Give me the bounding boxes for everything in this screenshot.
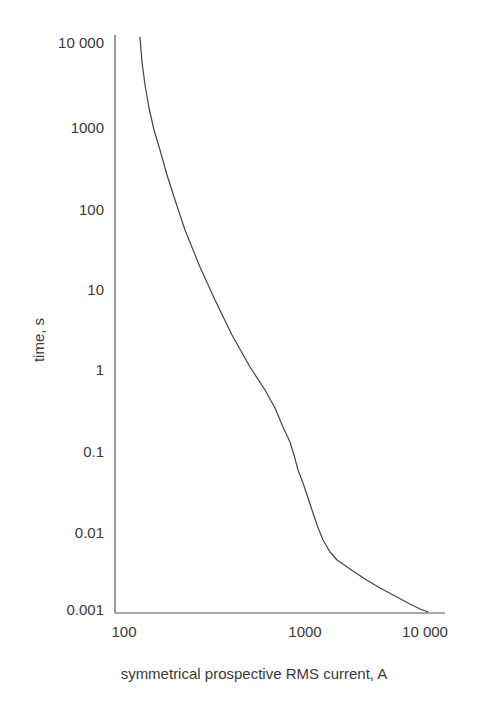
y-tick-label: 10 000 bbox=[58, 35, 104, 51]
y-tick-label: 0.1 bbox=[83, 444, 104, 460]
y-axis-title: time, s bbox=[30, 318, 47, 362]
y-tick-label: 1 bbox=[96, 362, 104, 378]
x-tick-label: 10 000 bbox=[402, 624, 448, 640]
x-tick-label: 100 bbox=[111, 624, 136, 640]
time-current-curve bbox=[140, 37, 428, 612]
y-tick-label: 0.01 bbox=[75, 525, 104, 541]
x-axis-title: symmetrical prospective RMS current, A bbox=[0, 665, 478, 682]
y-tick-label: 10 bbox=[87, 282, 104, 298]
y-tick-label: 0.001 bbox=[66, 602, 104, 618]
x-tick-label: 1000 bbox=[288, 624, 321, 640]
y-tick-label: 100 bbox=[79, 202, 104, 218]
y-tick-label: 1000 bbox=[71, 120, 104, 136]
